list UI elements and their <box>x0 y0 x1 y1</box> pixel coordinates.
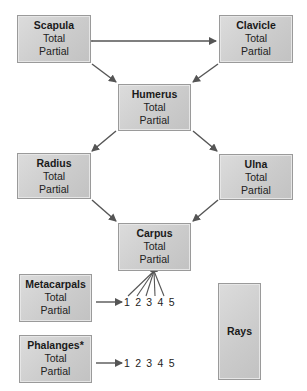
box-line-partial: Partial <box>20 304 91 317</box>
box-title: Carpus <box>119 227 190 240</box>
box-title: Radius <box>18 157 90 170</box>
box-metacarpals: Metacarpals Total Partial <box>19 274 92 322</box>
box-title: Humerus <box>119 88 190 101</box>
box-line-partial: Partial <box>220 45 292 58</box>
box-line-partial: Partial <box>18 45 90 58</box>
box-title: Clavicle <box>220 19 292 32</box>
box-radius: Radius Total Partial <box>17 153 91 199</box>
box-line-total: Total <box>20 291 91 304</box>
box-line-total: Total <box>220 171 292 184</box>
box-line-partial: Partial <box>20 365 91 378</box>
box-line-partial: Partial <box>119 114 190 127</box>
box-rays: Rays <box>218 283 261 380</box>
box-line-total: Total <box>18 170 90 183</box>
box-line-partial: Partial <box>119 253 190 266</box>
box-line-total: Total <box>18 32 90 45</box>
box-line-total: Total <box>119 240 190 253</box>
box-title: Phalanges* <box>20 339 91 352</box>
box-ulna: Ulna Total Partial <box>219 154 293 200</box>
box-phalanges: Phalanges* Total Partial <box>19 335 92 383</box>
box-title: Rays <box>227 325 252 338</box>
box-line-partial: Partial <box>18 183 90 196</box>
metacarpal-digit-numbers: 1 2 3 4 5 <box>124 296 176 308</box>
box-clavicle: Clavicle Total Partial <box>219 15 293 63</box>
box-title: Ulna <box>220 158 292 171</box>
box-scapula: Scapula Total Partial <box>17 15 91 63</box>
box-line-partial: Partial <box>220 184 292 197</box>
box-title: Scapula <box>18 19 90 32</box>
box-title: Metacarpals <box>20 278 91 291</box>
box-line-total: Total <box>220 32 292 45</box>
box-line-total: Total <box>119 101 190 114</box>
box-line-total: Total <box>20 352 91 365</box>
box-humerus: Humerus Total Partial <box>118 84 191 131</box>
phalanx-digit-numbers: 1 2 3 4 5 <box>124 357 176 369</box>
box-carpus: Carpus Total Partial <box>118 223 191 271</box>
